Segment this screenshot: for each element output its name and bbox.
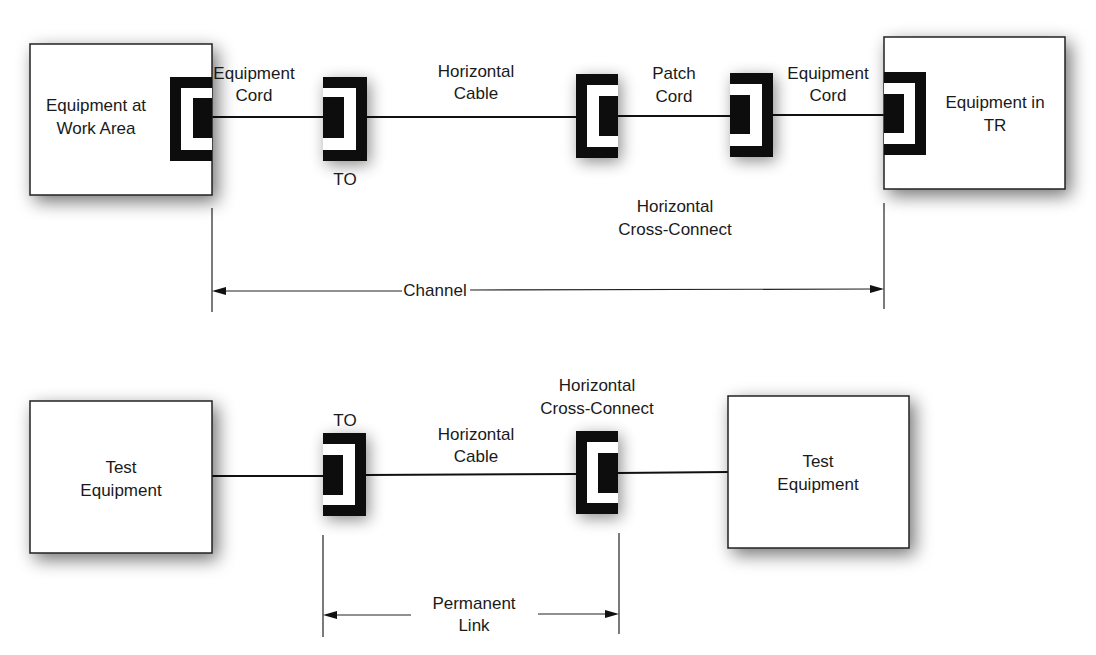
test-cord-right-line [618,472,728,473]
arrow-left-icon [212,287,226,295]
telecom-outlet-connector-icon [323,433,366,516]
horizontal-cable-line [366,474,576,475]
equipment-work-area-label-1: Equipment at [46,96,146,115]
cross-connect-connector-icon [576,431,618,514]
horizontal-cable-label-2: Cable [454,447,498,466]
equipment-cord-right-label-2: Cord [810,86,847,105]
equipment-tr-label-2: TR [984,116,1007,135]
arrow-right-icon [870,285,884,293]
horizontal-cable-label-1: Horizontal [438,425,515,444]
horizontal-cross-connect-label-1: Horizontal [637,197,714,216]
telecom-outlet-connector-icon [323,77,367,161]
cross-connect-left-connector-icon [576,74,618,158]
to-label: TO [333,411,356,430]
permanent-link-label-2: Link [458,616,490,635]
arrow-right-icon [605,610,619,618]
horizontal-cross-connect-label-2: Cross-Connect [618,220,732,239]
to-label: TO [333,170,356,189]
equipment-cord-right-label-1: Equipment [787,64,869,83]
patch-cord-label-1: Patch [652,64,695,83]
horizontal-cross-connect-label-1: Horizontal [559,376,636,395]
channel-diagram: Equipment at Work Area Equipment Cord TO… [30,37,1065,312]
arrow-left-icon [323,611,337,619]
tr-connector-icon [884,72,926,155]
test-equipment-right-label-1: Test [802,452,833,471]
channel-dimension: Channel [212,203,884,312]
test-equipment-left-label-2: Equipment [80,481,162,500]
cross-connect-right-connector-icon [730,73,773,157]
permanent-link-dimension: Permanent Link [323,533,619,637]
equipment-cord-left-label-2: Cord [236,86,273,105]
channel-label: Channel [403,281,466,300]
equipment-work-area-label-2: Work Area [56,119,136,138]
equipment-cord-left-label-1: Equipment [213,64,295,83]
test-equipment-left-label-1: Test [105,458,136,477]
horizontal-cable-label-1: Horizontal [438,62,515,81]
horizontal-cable-label-2: Cable [454,84,498,103]
permanent-link-label-1: Permanent [432,594,515,613]
test-equipment-right-box: Test Equipment [728,396,909,548]
test-equipment-left-box: Test Equipment [30,401,212,553]
cabling-diagram: Equipment at Work Area Equipment Cord TO… [0,0,1096,655]
work-area-connector-icon [170,77,212,161]
patch-cord-label-2: Cord [656,87,693,106]
equipment-tr-label-1: Equipment in [945,93,1044,112]
horizontal-cross-connect-label-2: Cross-Connect [540,399,654,418]
permanent-link-diagram: Test Equipment TO Horizontal Cable Horiz… [30,376,909,637]
test-equipment-right-label-2: Equipment [777,475,859,494]
